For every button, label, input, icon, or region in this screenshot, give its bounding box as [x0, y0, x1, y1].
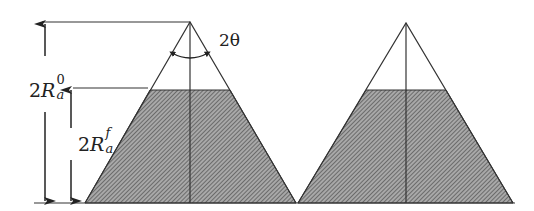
initial-height-label: 2R 0 a — [29, 78, 65, 100]
label-symbol: R — [90, 133, 104, 155]
left-cone — [85, 22, 296, 203]
label-superscript: f — [105, 126, 110, 139]
label-prefix: 2 — [29, 79, 41, 101]
angle-label: 2θ — [219, 32, 240, 49]
cone-diagram — [0, 0, 534, 211]
right-cone — [298, 23, 513, 203]
label-superscript: 0 — [56, 73, 64, 86]
label-symbol: R — [41, 79, 55, 101]
label-subscript: a — [56, 88, 64, 101]
final-height-label: 2R f a — [78, 132, 114, 154]
label-subscript: a — [105, 142, 113, 155]
label-prefix: 2 — [78, 133, 90, 155]
